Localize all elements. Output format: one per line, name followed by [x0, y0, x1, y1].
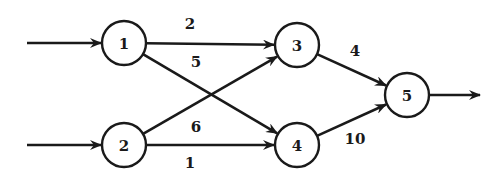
- node-4: 4: [275, 123, 319, 167]
- edge-label-1-4: 5: [191, 53, 201, 71]
- diagram-svg: 12345 2561410: [0, 0, 499, 187]
- node-1: 1: [102, 21, 146, 65]
- edge-label-4-5: 10: [345, 130, 366, 148]
- node-5: 5: [385, 73, 429, 117]
- node-label-2: 2: [119, 137, 129, 155]
- node-label-3: 3: [292, 37, 302, 55]
- node-3: 3: [275, 23, 319, 67]
- node-label-4: 4: [292, 137, 302, 155]
- edge-label-1-3: 2: [185, 15, 195, 33]
- edge-label-2-4: 1: [185, 154, 195, 172]
- node-2: 2: [102, 123, 146, 167]
- edge-label-3-5: 4: [350, 42, 360, 60]
- edge-label-2-3: 6: [191, 118, 201, 136]
- flow-network-diagram: 12345 2561410: [0, 0, 499, 187]
- node-label-1: 1: [119, 35, 129, 53]
- node-label-5: 5: [402, 87, 412, 105]
- edge-1-3: [146, 43, 274, 44]
